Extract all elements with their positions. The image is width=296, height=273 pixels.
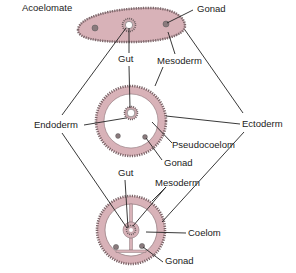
label-gonad-middle: Gonad xyxy=(164,158,193,168)
label-gonad-top: Gonad xyxy=(197,4,226,14)
label-pseudocoelom: Pseudocoelom xyxy=(172,140,235,150)
body-plan-diagram xyxy=(0,0,296,273)
label-coelom: Coelom xyxy=(188,228,221,238)
coelomate-cross-section xyxy=(97,196,165,264)
label-endoderm: Endoderm xyxy=(34,120,78,130)
label-gonad-bottom: Gonad xyxy=(165,256,194,266)
label-ectoderm: Ectoderm xyxy=(242,119,283,129)
gonad-right xyxy=(163,21,169,27)
label-mesoderm-bottom: Mesoderm xyxy=(155,178,200,188)
label-acoelomate: Acoelomate xyxy=(22,3,72,13)
gonad-left xyxy=(92,25,98,31)
label-gut-top: Gut xyxy=(118,54,133,64)
label-mesoderm-top: Mesoderm xyxy=(157,56,202,66)
acoelomate-cross-section xyxy=(78,8,185,42)
label-gut-bottom: Gut xyxy=(118,168,133,178)
